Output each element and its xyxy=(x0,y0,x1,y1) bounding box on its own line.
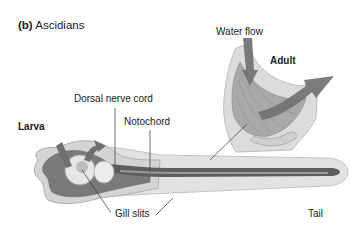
label-gill-slits: Gill slits xyxy=(115,209,149,219)
label-adult: Adult xyxy=(270,56,296,66)
label-water-flow: Water flow xyxy=(216,27,263,37)
label-notochord: Notochord xyxy=(124,117,170,127)
larva xyxy=(35,140,349,204)
label-larva: Larva xyxy=(18,122,45,132)
larva-sensory-vesicle xyxy=(94,161,114,183)
gill-slit-detail xyxy=(76,161,88,173)
ascidian-illustration xyxy=(0,0,359,236)
label-dorsal-nerve-cord: Dorsal nerve cord xyxy=(74,94,153,104)
leader-gill-slits-2 xyxy=(156,198,173,215)
label-tail: Tail xyxy=(308,209,323,219)
